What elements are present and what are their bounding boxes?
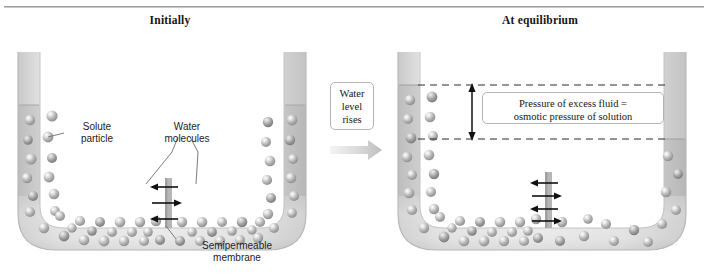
solute-particles-right-panel-right-arm: [657, 151, 683, 229]
water-level-rises-arrow: [330, 140, 382, 160]
osmosis-figure: Initially At equilibrium: [0, 0, 708, 280]
panel-title-initially: Initially: [0, 14, 340, 26]
note-water-level-rises: Water level rises: [330, 82, 374, 130]
flow-arrow-left-3: [150, 215, 178, 222]
label-water-molecules: Water molecules: [148, 121, 226, 144]
flow-arrow-right-4: [532, 217, 562, 224]
solute-particles-left-arm: [22, 110, 60, 217]
flow-arrow-right-2: [532, 192, 562, 199]
label-solute-particle: Solute particle: [66, 121, 128, 144]
water-flow-arrows-right: [530, 179, 562, 224]
u-tube-equilibrium: [398, 52, 686, 260]
solute-particles-right-arm: [261, 115, 299, 220]
note-osmotic-pressure: Pressure of excess fluid = osmotic press…: [482, 92, 664, 124]
flow-arrow-right-3: [530, 205, 558, 212]
header-rule: [4, 6, 704, 8]
leader-water-b2: [196, 152, 198, 184]
flow-arrow-left-2: [152, 199, 182, 206]
u-tube-initially: [18, 52, 306, 260]
solute-particles-right-panel-bottom-right: [555, 214, 653, 247]
leader-lines-left: [48, 133, 198, 239]
panel-title-equilibrium: At equilibrium: [380, 14, 700, 26]
flow-arrow-right-1: [530, 179, 558, 186]
leader-water-a2: [146, 152, 172, 184]
leader-membrane: [166, 226, 176, 239]
solute-particles-right-panel-bottom-left: [419, 212, 543, 246]
semipermeable-membrane-left: [165, 178, 172, 228]
water-flow-arrows-left: [150, 183, 182, 222]
label-semipermeable-membrane: Semipermeable membrane: [178, 240, 296, 263]
solute-particles-bottom-left: [39, 211, 165, 246]
osmotic-pressure-measure-arrow: [468, 83, 475, 141]
flow-arrow-left-1: [150, 183, 178, 190]
semipermeable-membrane-right: [545, 172, 552, 228]
leader-solute: [48, 133, 64, 137]
solute-particles-right-panel-left-arm: [402, 92, 439, 215]
